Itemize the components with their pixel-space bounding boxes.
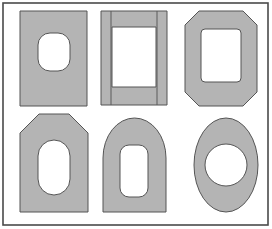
figure-canvas [0, 0, 272, 229]
shape-diagram [0, 0, 272, 229]
